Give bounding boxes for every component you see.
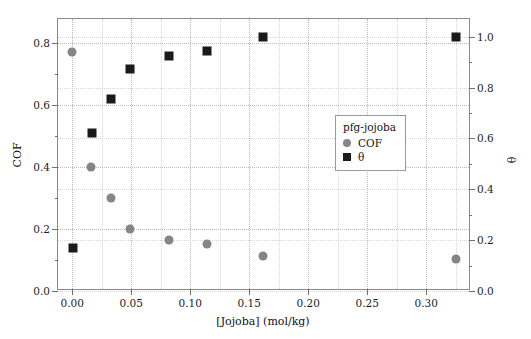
plot-area: 0.000.050.100.150.200.250.300.00.20.40.6… xyxy=(57,18,470,290)
legend-marker-square-icon xyxy=(343,153,351,161)
gridline-horizontal-right xyxy=(58,88,469,89)
y-axis-left-tick-minor xyxy=(55,260,58,261)
gridline-vertical xyxy=(190,19,191,289)
x-axis-tick-label: 0.20 xyxy=(296,297,319,309)
gridline-vertical xyxy=(426,19,427,289)
gridline-vertical-minor xyxy=(279,19,280,289)
gridline-horizontal xyxy=(58,229,469,230)
gridline-vertical xyxy=(249,19,250,289)
y-axis-right-tick-minor xyxy=(469,113,472,114)
gridline-vertical-minor xyxy=(161,19,162,289)
data-point-cof xyxy=(164,236,173,245)
gridline-horizontal-right xyxy=(58,240,469,241)
y-axis-left-tick-label: 0.0 xyxy=(33,285,50,297)
y-axis-left-tick-label: 0.8 xyxy=(33,37,50,49)
legend-label-cof: COF xyxy=(358,136,382,150)
data-point-theta xyxy=(125,64,134,73)
x-axis-tick xyxy=(190,289,191,295)
gridline-horizontal xyxy=(58,105,469,106)
data-point-cof xyxy=(259,252,268,261)
y-axis-left-tick xyxy=(52,229,58,230)
data-point-cof xyxy=(87,162,96,171)
x-axis-tick xyxy=(131,289,132,295)
gridline-vertical xyxy=(308,19,309,289)
y-axis-right-tick xyxy=(469,240,475,241)
data-point-theta xyxy=(69,243,78,252)
legend-label-theta: θ xyxy=(358,150,364,164)
x-axis-tick-label: 0.00 xyxy=(60,297,83,309)
y-axis-right-title: θ xyxy=(506,157,519,164)
y-axis-right-tick-label: 0.6 xyxy=(477,132,494,144)
gridline-horizontal-right xyxy=(58,138,469,139)
x-axis-tick-label: 0.25 xyxy=(355,297,378,309)
gridline-horizontal-right xyxy=(58,291,469,292)
x-axis-tick-label: 0.10 xyxy=(178,297,201,309)
y-axis-left-tick xyxy=(52,105,58,106)
data-point-theta xyxy=(88,129,97,138)
gridline-horizontal xyxy=(58,43,469,44)
y-axis-right-tick-minor xyxy=(469,266,472,267)
y-axis-right-tick-minor xyxy=(469,62,472,63)
x-axis-tick xyxy=(426,289,427,295)
x-axis-tick-label: 0.30 xyxy=(414,297,437,309)
y-axis-right-tick xyxy=(469,189,475,190)
legend-marker-circle-icon xyxy=(343,139,351,147)
y-axis-right-tick-label: 0.8 xyxy=(477,82,494,94)
legend: pfg-jojoba COF θ xyxy=(335,115,406,171)
data-point-theta xyxy=(259,32,268,41)
x-axis-tick xyxy=(308,289,309,295)
gridline-vertical-minor xyxy=(220,19,221,289)
x-axis-tick xyxy=(72,289,73,295)
y-axis-left-tick xyxy=(52,167,58,168)
gridline-vertical-minor xyxy=(102,19,103,289)
data-point-cof xyxy=(202,239,211,248)
data-point-theta xyxy=(451,32,460,41)
y-axis-right-tick-minor xyxy=(469,164,472,165)
chart-root: 0.000.050.100.150.200.250.300.00.20.40.6… xyxy=(0,0,531,339)
gridline-horizontal xyxy=(58,291,469,292)
y-axis-left-tick-minor xyxy=(55,74,58,75)
data-point-theta xyxy=(107,95,116,104)
legend-item-theta: θ xyxy=(343,150,396,164)
y-axis-right-tick-label: 0.2 xyxy=(477,234,494,246)
x-axis-tick-label: 0.05 xyxy=(119,297,142,309)
gridline-vertical xyxy=(131,19,132,289)
data-point-cof xyxy=(68,47,77,56)
y-axis-left-tick-label: 0.2 xyxy=(33,223,50,235)
legend-title: pfg-jojoba xyxy=(343,120,396,134)
y-axis-right-tick-label: 0.0 xyxy=(477,285,494,297)
y-axis-right-tick xyxy=(469,138,475,139)
y-axis-left-tick xyxy=(52,43,58,44)
legend-item-cof: COF xyxy=(343,136,396,150)
x-axis-tick-label: 0.15 xyxy=(237,297,260,309)
y-axis-right-tick xyxy=(469,291,475,292)
y-axis-left-tick-minor xyxy=(55,136,58,137)
data-point-theta xyxy=(164,51,173,60)
data-point-cof xyxy=(107,193,116,202)
y-axis-right-tick-label: 0.4 xyxy=(477,183,494,195)
y-axis-left-tick-label: 0.6 xyxy=(33,99,50,111)
y-axis-right-tick xyxy=(469,88,475,89)
gridline-horizontal-right xyxy=(58,189,469,190)
data-point-theta xyxy=(202,46,211,55)
y-axis-left-tick-label: 0.4 xyxy=(33,161,50,173)
gridline-horizontal xyxy=(58,167,469,168)
y-axis-right-tick-minor xyxy=(469,215,472,216)
data-point-cof xyxy=(125,224,134,233)
data-point-cof xyxy=(451,255,460,264)
y-axis-right-tick-label: 1.0 xyxy=(477,31,494,43)
y-axis-left-tick-minor xyxy=(55,198,58,199)
x-axis-tick xyxy=(249,289,250,295)
y-axis-right-tick xyxy=(469,37,475,38)
y-axis-left-tick xyxy=(52,291,58,292)
gridline-vertical-minor xyxy=(456,19,457,289)
x-axis-title: [Jojoba] (mol/kg) xyxy=(216,315,309,328)
x-axis-tick xyxy=(367,289,368,295)
y-axis-left-title: COF xyxy=(11,142,24,167)
